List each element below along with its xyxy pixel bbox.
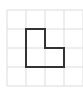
grid-diagram [0,0,83,89]
